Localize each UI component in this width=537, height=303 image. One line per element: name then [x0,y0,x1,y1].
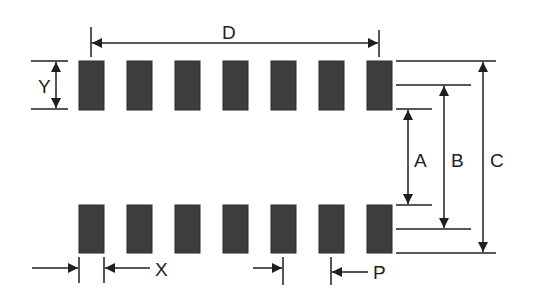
footprint-diagram: D Y A B C [0,0,537,303]
pad [271,61,296,110]
pad [175,205,200,253]
extension-lines [396,61,496,253]
label-b: B [451,150,464,171]
pad [175,61,200,110]
bottom-pad-row [79,205,392,253]
pad [79,205,104,253]
label-x: X [155,259,168,280]
pad [223,205,248,253]
top-pad-row [79,61,392,110]
pad [127,205,152,253]
pad [127,61,152,110]
label-y: Y [38,76,51,97]
pad [223,61,248,110]
dimension-x [32,257,150,283]
label-p: P [373,262,386,283]
pad [271,205,296,253]
pad [367,205,392,253]
dimension-p [253,257,368,285]
label-c: C [490,150,504,171]
diagram-canvas: D Y A B C [0,0,537,303]
pad [79,61,104,110]
pad [319,205,344,253]
label-d: D [222,22,236,43]
pad [367,61,392,110]
pad [319,61,344,110]
label-a: A [414,150,427,171]
